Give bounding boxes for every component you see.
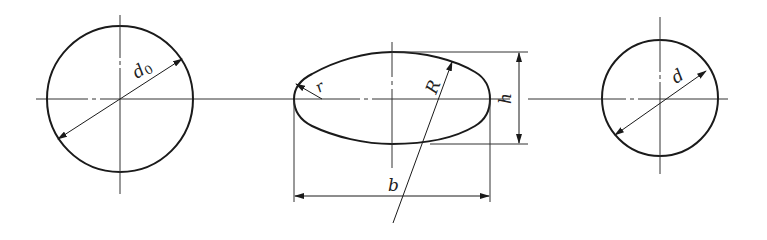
- b-label: b: [388, 175, 399, 195]
- h-label: h: [495, 93, 515, 104]
- R-label: R: [421, 77, 445, 97]
- r-label: r: [312, 77, 328, 97]
- d-label: d: [667, 65, 687, 88]
- d0-label: d0: [128, 55, 156, 84]
- left-circle-group: d0: [47, 15, 193, 194]
- middle-oval-group: r R h b: [294, 42, 528, 223]
- right-circle-group: d: [602, 17, 718, 174]
- diagram-canvas: d0 r R h b: [0, 0, 767, 240]
